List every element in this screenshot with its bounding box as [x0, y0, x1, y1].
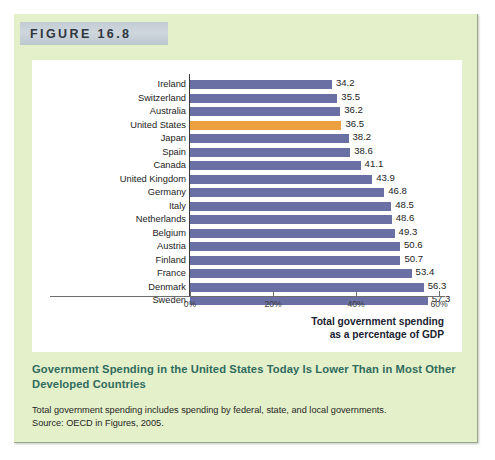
bar-category-label: Finland: [32, 254, 186, 268]
x-axis-line: [50, 296, 445, 297]
bar-value-label: 53.4: [416, 266, 435, 277]
x-axis-title-line2: as a percentage of GDP: [232, 329, 444, 342]
bar-category-label: United States: [32, 119, 186, 133]
caption-block: Government Spending in the United States…: [32, 362, 462, 429]
bar-track: [190, 94, 337, 103]
bar-value-label: 46.8: [388, 185, 407, 196]
bar-value-label: 48.6: [396, 212, 415, 223]
bar-value-label: 38.6: [354, 145, 373, 156]
bar-category-label: Belgium: [32, 227, 186, 241]
bar-row: Ireland34.2: [32, 78, 462, 92]
chart-card: Ireland34.2Switzerland35.5Australia36.2U…: [32, 60, 462, 352]
bar-value-label: 36.5: [345, 118, 364, 129]
caption-note-line1: Total government spending includes spend…: [32, 404, 462, 416]
bar-row: Spain38.6: [32, 146, 462, 160]
x-axis-tick-label: 0%: [184, 299, 196, 309]
caption-note-line2: Source: OECD in Figures, 2005.: [32, 417, 462, 429]
bar-value-label: 43.9: [376, 172, 395, 183]
bar-value-label: 34.2: [336, 77, 355, 88]
bar-track: [190, 229, 395, 238]
figure-caption-note: Total government spending includes spend…: [32, 404, 462, 429]
bar-row: Japan38.2: [32, 132, 462, 146]
bar-track: [190, 80, 332, 89]
bar: [190, 269, 412, 278]
bar: [190, 134, 349, 143]
figure-number-label: FIGURE 16.8: [20, 27, 131, 41]
figure-caption-title: Government Spending in the United States…: [32, 362, 462, 391]
bar-track: [190, 283, 424, 292]
bar: [190, 188, 384, 197]
bar-row: Denmark56.3: [32, 281, 462, 295]
bar-category-label: Netherlands: [32, 213, 186, 227]
bar: [190, 229, 395, 238]
bar-row: Belgium49.3: [32, 227, 462, 241]
bar-row: Canada41.1: [32, 159, 462, 173]
bar-category-label: Germany: [32, 186, 186, 200]
x-axis-tick-label: 40%: [347, 299, 364, 309]
bar-track: [190, 121, 341, 130]
x-axis-title-line1: Total government spending: [232, 316, 444, 329]
bar-row: Italy48.5: [32, 200, 462, 214]
bar-track: [190, 256, 400, 265]
x-axis-title: Total government spending as a percentag…: [232, 316, 444, 341]
bar-value-label: 36.2: [344, 104, 363, 115]
bar-track: [190, 242, 400, 251]
bar-row: Switzerland35.5: [32, 92, 462, 106]
bar: [190, 80, 332, 89]
bar-row: United States36.5: [32, 119, 462, 133]
bar-value-label: 50.6: [404, 239, 423, 250]
bar: [190, 202, 391, 211]
bar-value-label: 56.3: [428, 280, 447, 291]
bar-value-label: 50.7: [404, 253, 423, 264]
bar-category-label: Denmark: [32, 281, 186, 295]
bar: [190, 175, 372, 184]
bar-category-label: Spain: [32, 146, 186, 160]
bar: [190, 296, 428, 305]
x-axis-tick-label: 60%: [430, 299, 447, 309]
figure-number-band: FIGURE 16.8: [20, 22, 168, 45]
x-axis-tick: [273, 291, 274, 297]
figure-panel: FIGURE 16.8 Ireland34.2Switzerland35.5Au…: [14, 14, 478, 443]
bar-category-label: Austria: [32, 240, 186, 254]
bar: [190, 94, 337, 103]
bar-category-label: Australia: [32, 105, 186, 119]
bar: [190, 107, 340, 116]
bar-category-label: Italy: [32, 200, 186, 214]
bar: [190, 242, 400, 251]
bar-row: Austria50.6: [32, 240, 462, 254]
bar-row: Germany46.8: [32, 186, 462, 200]
bar-row: Australia36.2: [32, 105, 462, 119]
bar-category-label: Switzerland: [32, 92, 186, 106]
bar: [190, 148, 350, 157]
x-axis-tick-label: 20%: [264, 299, 281, 309]
bar-track: [190, 188, 384, 197]
bar-track: [190, 215, 392, 224]
x-axis-tick: [356, 291, 357, 297]
bar: [190, 215, 392, 224]
bar-track: [190, 107, 340, 116]
bar-category-label: Ireland: [32, 78, 186, 92]
bar-chart-plot: Ireland34.2Switzerland35.5Australia36.2U…: [32, 78, 462, 294]
bar-value-label: 35.5: [341, 91, 360, 102]
bar: [190, 161, 361, 170]
bar-track: [190, 134, 349, 143]
bar-category-label: Canada: [32, 159, 186, 173]
x-axis-tick: [439, 291, 440, 297]
x-axis-tick: [190, 291, 191, 297]
bar-track: [190, 202, 391, 211]
bar-category-label: France: [32, 267, 186, 281]
bar-highlighted: [190, 121, 341, 130]
bar-row: Netherlands48.6: [32, 213, 462, 227]
bar-value-label: 48.5: [395, 199, 414, 210]
bar-row: Finland50.7: [32, 254, 462, 268]
bar-track: [190, 148, 350, 157]
bar-category-label: Japan: [32, 132, 186, 146]
bar-track: [190, 296, 428, 305]
bar-value-label: 49.3: [399, 226, 418, 237]
bar-track: [190, 161, 361, 170]
bar-track: [190, 175, 372, 184]
bar: [190, 283, 424, 292]
bar-row: United Kingdom43.9: [32, 173, 462, 187]
bar-category-label: United Kingdom: [32, 173, 186, 187]
bar-value-label: 41.1: [365, 158, 384, 169]
